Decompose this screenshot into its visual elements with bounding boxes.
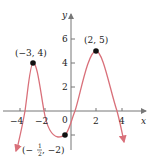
x-axis-label: x — [141, 116, 146, 126]
point-local-max-right — [93, 48, 99, 54]
y-axis-label: y — [61, 10, 68, 20]
point-label-min: (− 1 2 , −2) — [22, 142, 65, 157]
x-tick-label: 4 — [119, 116, 125, 126]
x-tick-label: 2 — [93, 116, 99, 126]
origin-label: 0 — [62, 115, 68, 125]
point-label-right-max: (2, 5) — [84, 35, 108, 45]
x-tick-label: −2 — [35, 116, 48, 126]
svg-text:(−: (− — [22, 145, 33, 155]
point-label-left-max: (−3, 4) — [15, 48, 47, 58]
graph: y x 0 −4 −2 2 4 2 4 6 (−3, 4) (2, 5) (− … — [0, 0, 150, 158]
point-local-max-left — [30, 60, 36, 66]
y-tick-label: 6 — [62, 34, 68, 44]
y-tick-label: 2 — [62, 82, 68, 92]
point-local-min — [62, 132, 68, 138]
y-tick-label: 4 — [62, 58, 68, 68]
svg-text:, −2): , −2) — [42, 145, 65, 155]
x-tick-label: −4 — [10, 116, 24, 126]
